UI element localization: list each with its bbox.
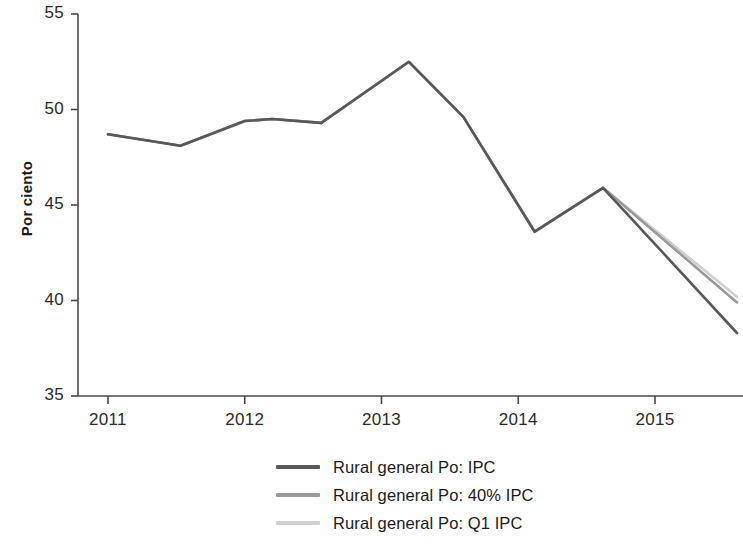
- y-tick-label: 35: [18, 385, 64, 405]
- y-tick-label: 40: [18, 290, 64, 310]
- x-tick-label: 2011: [68, 410, 148, 430]
- y-tick-label: 50: [18, 99, 64, 119]
- legend-item-ipc[interactable]: Rural general Po: IPC: [276, 456, 534, 478]
- legend-swatch-icon: [276, 493, 320, 497]
- axis-lines: [78, 14, 743, 396]
- x-tick-label: 2014: [478, 410, 558, 430]
- x-tick-label: 2013: [342, 410, 422, 430]
- y-tick-label: 45: [18, 194, 64, 214]
- legend-label: Rural general Po: IPC: [333, 458, 496, 477]
- series-line: [108, 62, 737, 333]
- legend-swatch-icon: [276, 465, 320, 469]
- series-line: [108, 62, 737, 297]
- legend-item-40-ipc[interactable]: Rural general Po: 40% IPC: [276, 484, 534, 506]
- legend-swatch-icon: [276, 521, 320, 525]
- legend-label: Rural general Po: 40% IPC: [333, 486, 534, 505]
- chart-axes: [71, 14, 743, 404]
- chart-legend: Rural general Po: IPCRural general Po: 4…: [276, 456, 534, 534]
- series-line: [108, 62, 737, 303]
- x-tick-label: 2012: [205, 410, 285, 430]
- chart-series: [108, 62, 737, 333]
- legend-label: Rural general Po: Q1 IPC: [333, 514, 523, 533]
- y-tick-label: 55: [18, 3, 64, 23]
- chart-container: Por ciento 3540455055 201120122013201420…: [0, 0, 743, 550]
- x-tick-label: 2015: [615, 410, 695, 430]
- legend-item-q1-ipc[interactable]: Rural general Po: Q1 IPC: [276, 512, 534, 534]
